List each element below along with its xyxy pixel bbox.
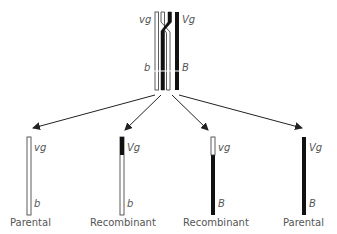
- meiosis-diagram: [0, 0, 337, 234]
- product-2-bottom-label: b: [127, 199, 133, 209]
- product-1-top-label: vg: [34, 143, 46, 153]
- product-3-caption: Recombinant: [183, 218, 249, 228]
- product-chromosome-2: [120, 137, 124, 215]
- product-1-caption: Parental: [10, 218, 51, 228]
- product-4-bottom-label: B: [309, 199, 316, 209]
- label-Vg-top: Vg: [182, 15, 195, 25]
- product-3-bottom-label: B: [218, 199, 225, 209]
- parent-chromosomes: [153, 12, 181, 90]
- product-1-bottom-label: b: [34, 199, 40, 209]
- product-4-top-label: Vg: [309, 143, 322, 153]
- label-B-top: B: [182, 63, 189, 73]
- product-3-top-label: vg: [218, 143, 230, 153]
- product-chromosome-1: [27, 137, 31, 215]
- product-4-caption: Parental: [283, 218, 324, 228]
- product-2-caption: Recombinant: [90, 218, 156, 228]
- label-vg-top: vg: [139, 15, 151, 25]
- label-b-top: b: [144, 63, 150, 73]
- product-2-top-label: Vg: [127, 143, 140, 153]
- product-chromosome-3: [211, 137, 215, 215]
- arrows: [33, 95, 302, 130]
- product-chromosome-4: [302, 137, 306, 215]
